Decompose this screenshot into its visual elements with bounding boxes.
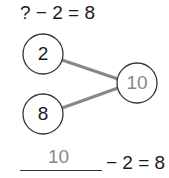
- whole-value: 10: [117, 72, 157, 94]
- bond-line-bottom: [62, 88, 118, 108]
- answer-equation-tail: − 2 = 8: [106, 152, 165, 174]
- part-top-value: 2: [23, 43, 63, 65]
- answer-value: 10: [48, 146, 69, 168]
- bond-line-top: [62, 60, 118, 79]
- answer-blank-line: [20, 170, 102, 171]
- part-bottom-value: 8: [23, 103, 63, 125]
